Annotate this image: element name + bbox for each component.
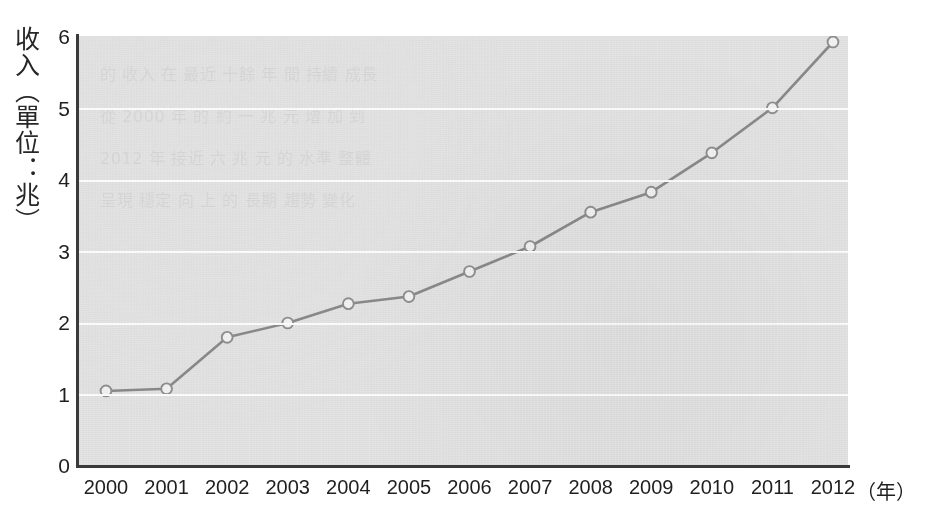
x-axis-spine <box>76 465 850 468</box>
y-axis-title: 收入（單位：兆） <box>6 26 40 446</box>
data-point-2008 <box>585 207 596 218</box>
y-axis-tick-labels: 0 1 2 3 4 5 6 <box>42 0 70 531</box>
x-axis-unit-label: （年） <box>856 476 916 505</box>
y-axis-spine <box>76 34 79 468</box>
gridline-y-2 <box>78 323 848 325</box>
data-point-2009 <box>646 187 657 198</box>
gridline-y-3 <box>78 251 848 253</box>
data-point-2005 <box>404 291 415 302</box>
data-point-2012 <box>828 37 839 48</box>
series-markers <box>101 37 839 397</box>
line-chart-figure: 收入（單位：兆） 0 1 2 3 4 5 6 的 收入 在 最近 十餘 年 間 … <box>0 0 927 531</box>
plot-area: 的 收入 在 最近 十餘 年 間 持續 成長 從 2000 年 的 約 一 兆 … <box>78 36 848 466</box>
series-line-revenue <box>106 42 833 391</box>
y-tick-4: 4 <box>46 168 70 192</box>
y-tick-3: 3 <box>46 240 70 264</box>
y-tick-1: 1 <box>46 383 70 407</box>
data-point-2004 <box>343 298 354 309</box>
gridline-y-4 <box>78 180 848 182</box>
data-point-2006 <box>464 266 475 277</box>
data-point-2010 <box>706 147 717 158</box>
data-point-2002 <box>222 332 233 343</box>
data-point-2001 <box>161 383 172 394</box>
gridline-y-1 <box>78 394 848 396</box>
y-tick-2: 2 <box>46 311 70 335</box>
gridline-y-5 <box>78 108 848 110</box>
y-tick-6: 6 <box>46 25 70 49</box>
y-tick-5: 5 <box>46 97 70 121</box>
y-tick-0: 0 <box>46 454 70 478</box>
